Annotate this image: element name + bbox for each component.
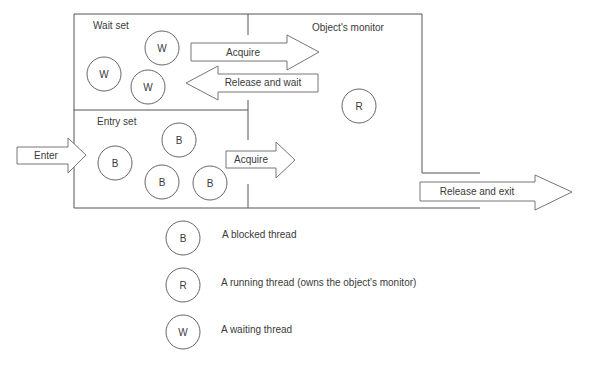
blocked-thread: B [193, 166, 227, 200]
blocked-thread: B [162, 123, 196, 157]
svg-text:R: R [179, 280, 186, 291]
legend-item-running: R A running thread (owns the object's mo… [166, 268, 416, 302]
wait-set-label: Wait set [93, 20, 129, 31]
legend-blocked-label: A blocked thread [222, 229, 297, 240]
legend-item-blocked: B A blocked thread [166, 221, 297, 255]
svg-text:B: B [176, 135, 183, 146]
acquire-from-wait-arrow: Acquire [191, 35, 319, 70]
waiting-thread: W [87, 57, 121, 91]
wait-set-threads: W W W [87, 31, 179, 104]
svg-text:W: W [178, 327, 188, 338]
monitor-label: Object's monitor [312, 22, 385, 33]
entry-set-threads: B B B B [98, 123, 227, 200]
release-and-exit-arrow: Release and exit [420, 175, 572, 210]
svg-text:B: B [112, 158, 119, 169]
blocked-thread: B [98, 146, 132, 180]
legend: B A blocked thread R A running thread (o… [166, 221, 416, 349]
acquire-from-entry-label: Acquire [234, 154, 268, 165]
enter-label: Enter [34, 150, 59, 161]
blocked-thread: B [145, 165, 179, 199]
svg-text:B: B [180, 233, 187, 244]
svg-text:B: B [207, 178, 214, 189]
acquire-from-wait-label: Acquire [226, 47, 260, 58]
enter-arrow: Enter [17, 138, 86, 173]
monitor-diagram: Wait set Entry set Object's monitor Acqu… [0, 0, 589, 369]
svg-text:R: R [355, 101, 362, 112]
release-and-exit-label: Release and exit [440, 186, 515, 197]
waiting-thread: W [145, 31, 179, 65]
svg-text:W: W [99, 69, 109, 80]
svg-text:B: B [159, 177, 166, 188]
release-and-wait-arrow: Release and wait [186, 66, 318, 100]
running-thread: R [342, 89, 376, 123]
legend-item-waiting: W A waiting thread [166, 315, 292, 349]
waiting-thread: W [131, 70, 165, 104]
entry-set-label: Entry set [97, 116, 137, 127]
svg-text:W: W [157, 43, 167, 54]
legend-running-label: A running thread (owns the object's moni… [221, 277, 416, 288]
legend-waiting-label: A waiting thread [221, 324, 292, 335]
acquire-from-entry-arrow: Acquire [226, 142, 295, 178]
svg-text:W: W [143, 82, 153, 93]
release-and-wait-label: Release and wait [225, 77, 302, 88]
